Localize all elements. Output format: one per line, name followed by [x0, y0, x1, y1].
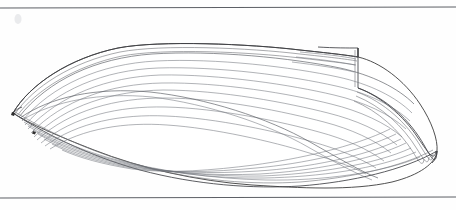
figure-page: clinker-planked boat hull perspective th… — [0, 0, 456, 210]
transom-step-top — [318, 47, 358, 48]
bottom-rule — [0, 197, 456, 198]
paper-smudge-artifact — [15, 14, 22, 24]
top-rule — [0, 7, 456, 8]
boat-hull-line-drawing — [0, 0, 456, 210]
